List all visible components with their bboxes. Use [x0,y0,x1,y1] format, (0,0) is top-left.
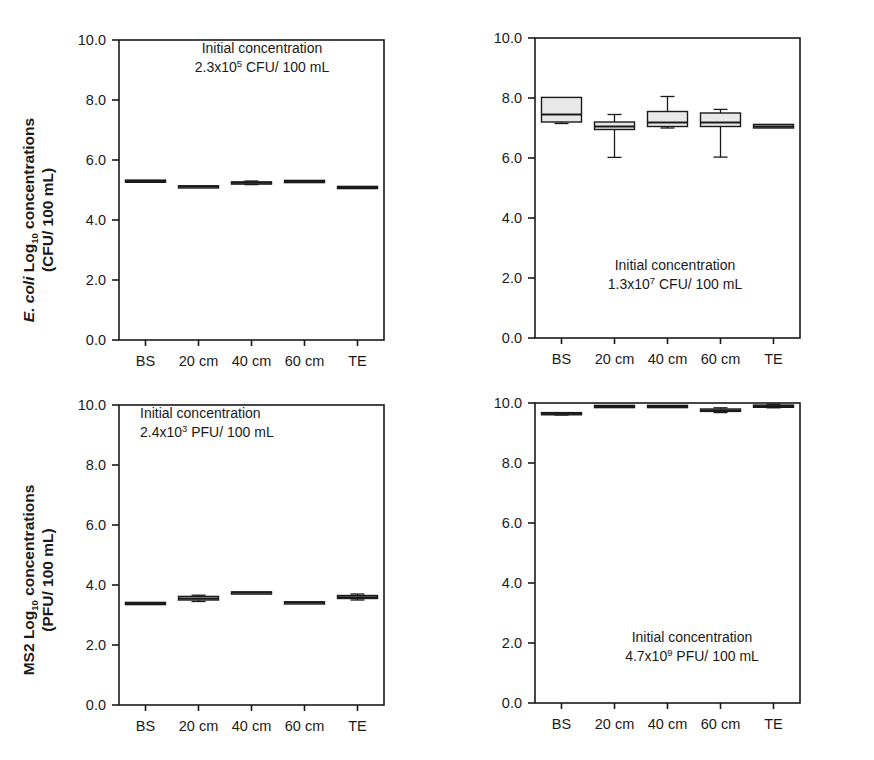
annotation-units: CFU/ 100 mL [242,59,329,75]
panel-a-x-ticks: BS20 cm40 cm60 cmTE [136,340,367,369]
y-tick-label: 0.0 [86,697,106,713]
panel-bottom-left: MS2 Log10 concentrations (PFU/ 100 mL) 1… [0,390,440,760]
y-tick-label: 4.0 [502,210,522,226]
annotation-mantissa: 2.3x10 [195,59,237,75]
panel-b-boxes [542,97,794,158]
y-tick-label: 0.0 [86,332,106,348]
panel-c-svg: MS2 Log10 concentrations (PFU/ 100 mL) 1… [0,390,440,760]
box-plot-60-cm [285,602,325,604]
box-plot-40-cm [648,405,688,407]
panel-b-x-ticks: BS20 cm40 cm60 cmTE [552,338,783,367]
annotation-line-1: Initial concentration [615,257,736,273]
box-plot-60-cm [701,408,741,413]
panel-a-annotation: Initial concentration 2.3x105 CFU/ 100 m… [195,40,330,75]
y-title-genus: E. coli [20,276,37,322]
box-plot-BS [126,602,166,604]
y-tick-label: 10.0 [494,395,522,411]
box-body [701,113,741,127]
panel-a-plot-frame [119,40,384,340]
annotation-units: PFU/ 100 mL [187,424,274,440]
y-title-tail: concentrations [20,485,37,600]
y-tick-label: 10.0 [494,30,522,46]
y-tick-label: 6.0 [86,152,106,168]
y-tick-label: 8.0 [502,90,522,106]
x-tick-label: 60 cm [701,716,741,732]
panel-top-right: 10.08.06.04.02.00.0 BS20 cm40 cm60 cmTE … [440,20,874,390]
panel-a-y-axis-title: E. coli Log10 concentrations (CFU/ 100 m… [20,118,56,322]
panel-d-y-ticks: 10.08.06.04.02.00.0 [494,395,535,711]
annotation-mantissa: 2.4x10 [140,424,182,440]
panel-c-annotation: Initial concentration 2.4x103 PFU/ 100 m… [140,405,274,440]
x-tick-label: 20 cm [595,351,635,367]
x-tick-label: 20 cm [595,716,635,732]
box-plot-40-cm [232,592,272,594]
annotation-units: PFU/ 100 mL [672,648,759,664]
box-plot-BS [126,180,166,182]
panel-a-boxes [126,180,378,188]
panel-top-left: E. coli Log10 concentrations (CFU/ 100 m… [0,20,440,390]
x-tick-label: 40 cm [232,718,272,734]
panel-b-y-ticks: 10.08.06.04.02.00.0 [494,30,535,346]
box-plot-20-cm [595,115,635,158]
y-tick-label: 4.0 [86,577,106,593]
panel-c-x-ticks: BS20 cm40 cm60 cmTE [136,705,367,734]
x-tick-label: 60 cm [285,353,325,369]
y-title-tail: concentrations [20,118,37,233]
y-tick-label: 4.0 [86,212,106,228]
y-title-units: (PFU/ 100 mL) [39,528,56,631]
x-tick-label: TE [348,353,367,369]
x-tick-label: 20 cm [179,353,219,369]
panel-d-svg: 10.08.06.04.02.00.0 BS20 cm40 cm60 cmTE … [440,390,874,760]
box-plot-TE [754,124,794,128]
y-tick-label: 2.0 [502,635,522,651]
panel-bottom-right: 10.08.06.04.02.00.0 BS20 cm40 cm60 cmTE … [440,390,874,760]
panel-d-x-ticks: BS20 cm40 cm60 cmTE [552,703,783,732]
box-plot-60-cm [701,109,741,157]
panel-a-svg: E. coli Log10 concentrations (CFU/ 100 m… [0,20,440,390]
x-tick-label: TE [764,716,783,732]
svg-text:1.3x107 CFU/ 100 mL: 1.3x107 CFU/ 100 mL [608,275,743,292]
panel-c-y-ticks: 10.08.06.04.02.00.0 [78,397,119,713]
y-tick-label: 6.0 [502,150,522,166]
x-tick-label: BS [136,353,155,369]
box-plot-TE [338,594,378,600]
y-tick-label: 8.0 [502,455,522,471]
x-tick-label: BS [552,716,571,732]
svg-text:2.4x103 PFU/ 100 mL: 2.4x103 PFU/ 100 mL [140,423,274,440]
annotation-mantissa: 4.7x10 [625,648,667,664]
y-tick-label: 10.0 [78,32,106,48]
box-plot-40-cm [232,181,272,185]
svg-text:MS2 Log10 concentrations: MS2 Log10 concentrations [20,485,40,676]
x-tick-label: 40 cm [232,353,272,369]
y-tick-label: 2.0 [86,637,106,653]
box-plot-40-cm [648,97,688,129]
x-tick-label: TE [764,351,783,367]
panel-b-plot-frame [535,38,800,338]
panel-d-plot-frame [535,403,800,703]
box-plot-60-cm [285,180,325,182]
y-tick-label: 6.0 [502,515,522,531]
panel-b-svg: 10.08.06.04.02.00.0 BS20 cm40 cm60 cmTE … [440,20,874,390]
panel-d-annotation: Initial concentration 4.7x109 PFU/ 100 m… [625,629,759,664]
annotation-line-1: Initial concentration [140,405,261,421]
x-tick-label: 20 cm [179,718,219,734]
figure-root: E. coli Log10 concentrations (CFU/ 100 m… [0,0,874,760]
box-body [542,97,582,122]
box-plot-20-cm [179,186,219,188]
y-tick-label: 8.0 [86,457,106,473]
panel-c-y-axis-title: MS2 Log10 concentrations (PFU/ 100 mL) [20,485,56,676]
annotation-mantissa: 1.3x10 [608,276,650,292]
panel-c-plot-frame [119,405,384,705]
box-plot-TE [338,186,378,188]
panel-c-boxes [126,592,378,605]
box-plot-20-cm [595,405,635,407]
y-tick-label: 4.0 [502,575,522,591]
annotation-line-1: Initial concentration [202,40,323,56]
y-title-rest: Log [20,244,37,277]
y-tick-label: 0.0 [502,330,522,346]
x-tick-label: BS [136,718,155,734]
panel-b-annotation: Initial concentration 1.3x107 CFU/ 100 m… [608,257,743,292]
x-tick-label: 40 cm [648,716,688,732]
y-title-units: (CFU/ 100 mL) [39,168,56,272]
box-plot-TE [754,404,794,408]
